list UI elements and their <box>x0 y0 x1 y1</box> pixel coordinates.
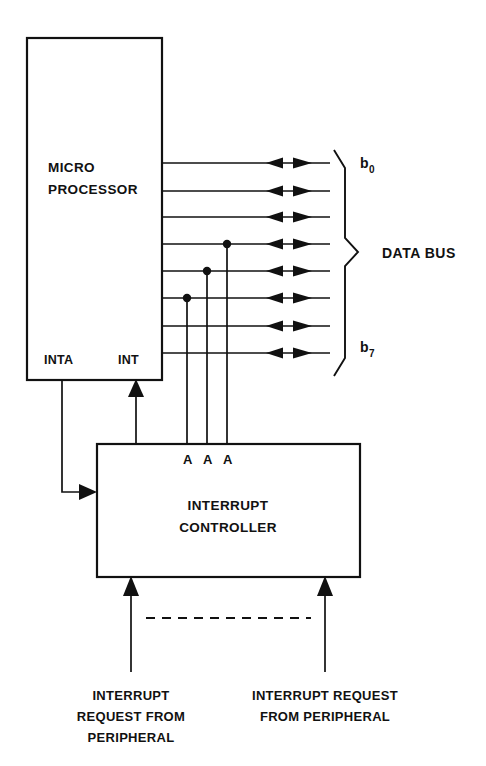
micro-processor-label-line2: PROCESSOR <box>48 182 138 197</box>
bus-junction-dot-2 <box>203 267 211 275</box>
bus-junction-dot-3 <box>223 240 231 248</box>
interrupt-controller-label-line2: CONTROLLER <box>179 520 277 535</box>
bus-bit-first-subscript: 0 <box>369 164 375 175</box>
inta-signal-line <box>62 380 84 492</box>
interrupt-request-left-caption-line3: PERIPHERAL <box>88 730 175 745</box>
interrupt-request-left-arrowhead <box>123 576 139 596</box>
block-diagram-canvas: MICRO PROCESSOR INTA INT <box>0 0 486 766</box>
interrupt-request-left-caption-line1: INTERRUPT <box>92 688 169 703</box>
diagram-root: MICRO PROCESSOR INTA INT <box>0 0 486 766</box>
int-arrowhead <box>128 379 144 397</box>
address-pin-label-2: A <box>203 452 213 467</box>
inta-pin-label: INTA <box>44 353 73 367</box>
interrupt-controller-label-line1: INTERRUPT <box>188 498 269 513</box>
data-bus-brace <box>334 150 358 376</box>
data-bus-line-2 <box>162 186 330 197</box>
int-pin-label: INT <box>118 353 139 367</box>
interrupt-request-right-caption-line1: INTERRUPT REQUEST <box>252 688 398 703</box>
micro-processor-label-line1: MICRO <box>48 160 95 175</box>
data-bus-line-5 <box>162 266 330 277</box>
interrupt-request-right-arrowhead <box>317 576 333 596</box>
bus-bit-first-label: b <box>360 155 369 171</box>
data-bus-line-3 <box>162 212 330 223</box>
bus-bit-last-label: b <box>360 339 369 355</box>
address-pin-label-3: A <box>223 452 233 467</box>
bus-bit-last-subscript: 7 <box>369 348 375 359</box>
data-bus-line-4 <box>162 239 330 250</box>
interrupt-request-left-caption-line2: REQUEST FROM <box>77 709 185 724</box>
data-bus-label: DATA BUS <box>382 245 456 261</box>
micro-processor-box[interactable] <box>27 38 162 380</box>
interrupt-request-right-caption-line2: FROM PERIPHERAL <box>260 709 390 724</box>
data-bus-line-1 <box>162 158 330 169</box>
address-pin-label-1: A <box>183 452 193 467</box>
bus-junction-dot-1 <box>183 294 191 302</box>
inta-arrowhead <box>79 484 97 500</box>
